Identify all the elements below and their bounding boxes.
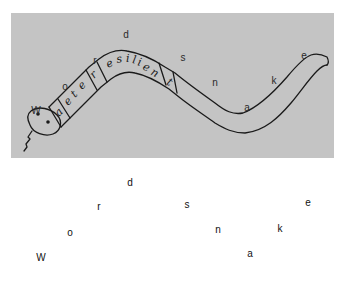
- body-letter: e: [104, 56, 116, 71]
- photo-letter: a: [244, 103, 250, 113]
- photo-letter: s: [181, 53, 186, 63]
- letter: W: [36, 253, 45, 263]
- snake-drawing: a e t e r e s i l i e n t: [11, 13, 334, 158]
- photo-letter: r: [93, 56, 96, 66]
- letter: n: [215, 225, 221, 235]
- letter: d: [127, 178, 133, 188]
- photo-letter: o: [62, 82, 68, 92]
- body-letter: e: [75, 78, 89, 92]
- snake-eye-right: [46, 120, 50, 124]
- snake-drawing-photo: a e t e r e s i l i e n t d r s e o n k …: [11, 13, 334, 158]
- photo-letter: k: [272, 76, 277, 86]
- photo-letter: W: [31, 106, 40, 116]
- letter: e: [305, 198, 311, 208]
- letter: a: [247, 249, 253, 259]
- body-letter: i: [126, 52, 130, 65]
- body-letter: s: [115, 52, 123, 66]
- letter: s: [185, 200, 190, 210]
- photo-letter: n: [212, 78, 218, 88]
- snake-tongue: [24, 131, 32, 151]
- photo-letter: d: [123, 30, 129, 40]
- body-letter: t: [165, 75, 176, 89]
- letter: r: [97, 202, 100, 212]
- body-letter: t: [68, 87, 81, 100]
- letter: k: [278, 224, 283, 234]
- snake-body-lower-edge: [61, 65, 327, 133]
- photo-letter: e: [301, 51, 307, 61]
- letter: o: [67, 228, 73, 238]
- body-letter: r: [87, 68, 100, 81]
